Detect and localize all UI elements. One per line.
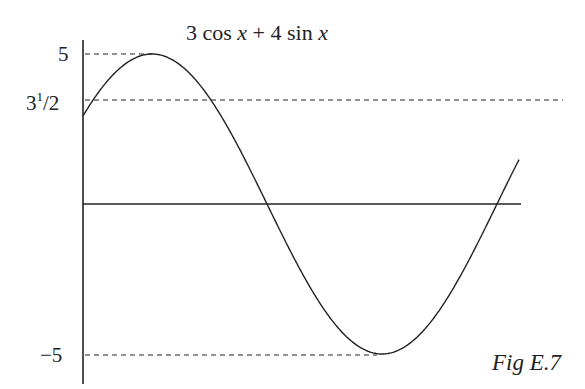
title-plus: + — [253, 20, 265, 45]
graph-title: 3 cos x + 4 sin x — [186, 22, 328, 44]
title-coef-b: 4 — [271, 20, 282, 45]
title-coef-a: 3 — [186, 20, 197, 45]
figure-caption: Fig E.7 — [492, 351, 561, 374]
ref-base: 3 — [26, 91, 37, 115]
title-var-a: x — [237, 20, 247, 45]
title-fn-cos: cos — [203, 20, 232, 45]
title-var-b: x — [318, 20, 328, 45]
graph-canvas — [0, 0, 585, 389]
max-label: 5 — [58, 44, 69, 65]
ref-frac-den: 2 — [49, 91, 60, 115]
three-half-label: 31/2 — [26, 90, 59, 114]
title-fn-sin: sin — [287, 20, 313, 45]
min-label: −5 — [40, 345, 62, 366]
